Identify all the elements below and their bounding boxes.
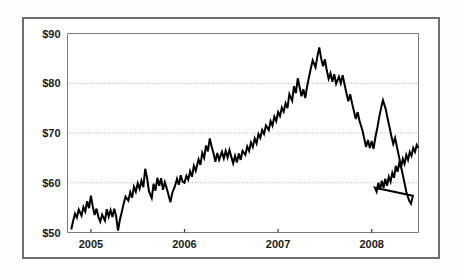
y-tick-label: $50 — [42, 227, 60, 239]
x-tick-marks — [91, 229, 372, 233]
plot-gridlines — [68, 83, 419, 183]
y-axis-tick-labels: $50$60$70$80$90 — [42, 28, 60, 239]
y-tick-label: $80 — [42, 77, 60, 89]
y-tick-label: $70 — [42, 127, 60, 139]
x-axis-tick-labels: 2005200620072008 — [79, 238, 384, 250]
price-series-group — [71, 47, 418, 230]
line-chart: $50$60$70$80$90 2005200620072008 — [0, 0, 462, 279]
x-tick-label: 2007 — [266, 238, 290, 250]
x-tick-label: 2006 — [172, 238, 196, 250]
x-tick-label: 2005 — [79, 238, 103, 250]
y-tick-label: $90 — [42, 28, 60, 40]
price-line — [71, 47, 418, 230]
chart-figure: $50$60$70$80$90 2005200620072008 — [0, 0, 462, 279]
y-tick-label: $60 — [42, 177, 60, 189]
x-tick-label: 2008 — [359, 238, 383, 250]
